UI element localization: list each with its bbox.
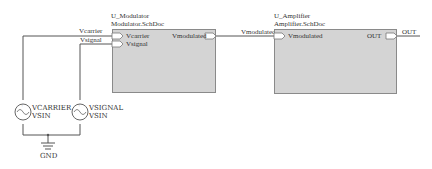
- vsignal-designator: VSIGNAL: [89, 104, 123, 112]
- vcarrier-type: VSIN: [32, 112, 51, 120]
- entry-label-vsignal: Vsignal: [126, 40, 148, 48]
- entry-label-vmodulated-out: Vmodulated: [172, 32, 207, 40]
- sheet-entry-vmodulated-in-icon[interactable]: [274, 33, 285, 39]
- vcarrier-designator: VCARRIER: [32, 104, 71, 112]
- entry-label-out: OUT: [367, 32, 381, 40]
- vsignal-type: VSIN: [89, 112, 108, 120]
- ground-label: GND: [40, 152, 57, 160]
- sheet-entry-vcarrier-icon[interactable]: [112, 33, 123, 39]
- entry-label-vcarrier: Vcarrier: [126, 32, 149, 40]
- entry-label-vmodulated-in: Vmodulated: [288, 32, 323, 40]
- sheet-entry-out-icon[interactable]: [386, 33, 397, 39]
- sheet-entries: [0, 0, 432, 169]
- sheet-entry-vsignal-icon[interactable]: [112, 41, 123, 47]
